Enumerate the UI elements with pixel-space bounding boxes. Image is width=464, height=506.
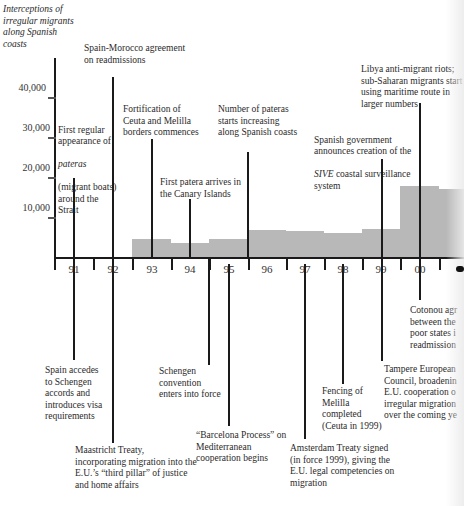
event-first-pateras-a: First regular appearance of	[58, 125, 111, 147]
event-canary: First patera arrives in the Canary Islan…	[160, 177, 241, 200]
event-sive-b: SIVE	[314, 169, 334, 179]
y-tick-10000	[48, 217, 56, 219]
event-fortification: Fortification of Ceuta and Melilla borde…	[123, 104, 199, 139]
bar-1995	[209, 239, 248, 258]
leader-line-first-pateras	[73, 178, 75, 258]
x-boundary-tick	[324, 259, 326, 270]
x-boundary-tick	[400, 259, 402, 270]
event-schengen-accede: Spain accedes to Schengen accords and in…	[45, 365, 102, 423]
event-melilla-fence: Fencing of Melilla completed (Ceuta in 1…	[322, 386, 382, 432]
y-axis-line	[54, 58, 56, 260]
y-tick-30000	[48, 137, 56, 139]
event-sive-a: Spanish government announces creation of…	[314, 135, 411, 157]
bar-1996	[248, 230, 286, 258]
event-spain-morocco: Spain-Morocco agreement on readmissions	[84, 43, 185, 66]
leader-line-schengen-accede-lower	[73, 280, 75, 360]
leader-line-libya	[419, 103, 421, 258]
event-first-pateras: First regular appearance of pateras (mig…	[58, 113, 116, 217]
x-boundary-tick	[171, 259, 173, 270]
event-maastricht: Maastricht Treaty, incorporating migrati…	[75, 445, 197, 491]
leader-line-spain-morocco	[112, 77, 114, 97]
bar-1997	[286, 231, 324, 258]
event-first-pateras-c: (migrant boats) around the Strait	[58, 182, 116, 215]
event-barcelona: “Barcelona Process” on Mediterranean coo…	[196, 430, 286, 465]
x-boundary-tick	[54, 259, 56, 270]
leader-line-schengen-force-ext	[208, 300, 210, 365]
x-boundary-tick	[132, 259, 134, 270]
event-pateras-increase: Number of pateras starts increasing alon…	[218, 104, 297, 139]
y-tick-label-20000: 20,000	[2, 162, 50, 173]
leader-line-canary	[189, 199, 191, 258]
x-label-96: 96	[257, 263, 277, 275]
x-boundary-tick	[439, 259, 441, 270]
y-tick-label-30000: 30,000	[2, 122, 50, 133]
bar-1998	[324, 233, 362, 258]
event-first-pateras-b: pateras	[58, 159, 87, 169]
leader-line-schengen-force-lower	[208, 278, 210, 300]
y-tick-40000	[48, 97, 56, 99]
y-tick-20000	[48, 177, 56, 179]
leader-line-amsterdam	[304, 264, 306, 439]
x-boundary-tick	[93, 259, 95, 270]
x-boundary-tick	[248, 259, 250, 270]
x-label-93: 93	[142, 263, 162, 275]
leader-line-fortification	[151, 139, 153, 258]
x-label-94: 94	[180, 263, 200, 275]
event-sive: Spanish government announces creation of…	[314, 123, 411, 192]
leader-line-melilla-fence	[342, 264, 344, 384]
event-schengen-force: Schengen convention enters into force	[159, 366, 221, 401]
leader-line-schengen-accede	[73, 258, 75, 280]
leader-line-sive	[381, 159, 383, 258]
leader-line-cotonou	[419, 258, 421, 300]
x-boundary-tick	[362, 259, 364, 270]
x-axis-line	[54, 257, 464, 259]
leader-line-barcelona	[228, 264, 230, 426]
x-boundary-tick	[286, 259, 288, 270]
event-amsterdam: Amsterdam Treaty signed (in force 1999),…	[290, 443, 394, 489]
page-edge-shadow	[446, 0, 464, 506]
leader-line-tampere	[381, 258, 383, 361]
leader-line-pateras-increase	[247, 152, 249, 258]
y-axis-title: Interceptions of irregular migrants alon…	[3, 4, 74, 50]
y-tick-label-40000: 40,000	[0, 82, 46, 93]
axis-arrow-marker	[456, 266, 464, 272]
y-tick-label-10000: 10,000	[2, 202, 50, 213]
